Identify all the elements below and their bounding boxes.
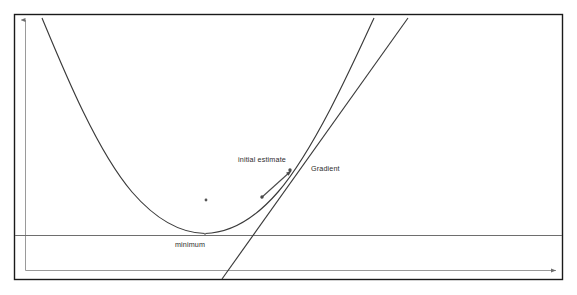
label-minimum: minimum	[175, 240, 205, 249]
label-initial-estimate: initial estimate	[238, 155, 286, 164]
figure-root: initial estimate Gradient minimum	[0, 0, 577, 295]
canvas-background	[0, 0, 577, 295]
estimate-point-lower-marker	[260, 195, 263, 198]
diagram-svg: initial estimate Gradient minimum	[0, 0, 577, 295]
minimum-vertex-marker	[204, 233, 206, 235]
interior-dot-marker	[205, 199, 208, 202]
label-gradient: Gradient	[311, 164, 340, 173]
estimate-point-on-curve-marker	[288, 168, 291, 171]
